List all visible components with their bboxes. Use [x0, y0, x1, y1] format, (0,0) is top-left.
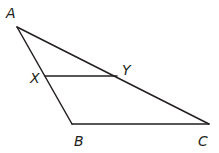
vertex-label-b: B — [74, 133, 84, 149]
vertex-label-y: Y — [122, 62, 132, 78]
vertex-label-x: X — [29, 70, 40, 86]
triangle-diagram: A X Y B C — [0, 0, 219, 153]
vertex-label-c: C — [198, 133, 208, 149]
vertex-label-a: A — [5, 5, 16, 21]
